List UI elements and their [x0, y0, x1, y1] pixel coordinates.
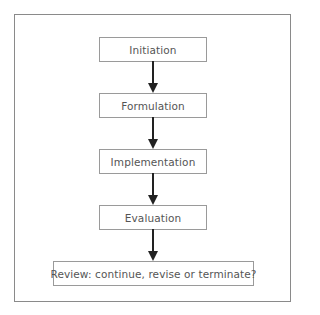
arrow-shaft: [152, 61, 154, 85]
arrow-down-icon: [148, 195, 158, 205]
step-initiation: Initiation: [99, 37, 207, 62]
step-review: Review: continue, revise or terminate?: [53, 261, 254, 286]
arrow-down-icon: [148, 83, 158, 93]
step-implementation: Implementation: [99, 149, 207, 174]
arrow-shaft: [152, 173, 154, 197]
arrow-shaft: [152, 229, 154, 253]
step-formulation: Formulation: [99, 93, 207, 118]
arrow-down-icon: [148, 139, 158, 149]
step-label: Implementation: [111, 156, 196, 168]
step-label: Formulation: [121, 100, 185, 112]
step-label: Evaluation: [125, 212, 181, 224]
arrow-shaft: [152, 117, 154, 141]
arrow-down-icon: [148, 251, 158, 261]
step-label: Review: continue, revise or terminate?: [51, 268, 257, 280]
step-label: Initiation: [129, 44, 176, 56]
step-evaluation: Evaluation: [99, 205, 207, 230]
